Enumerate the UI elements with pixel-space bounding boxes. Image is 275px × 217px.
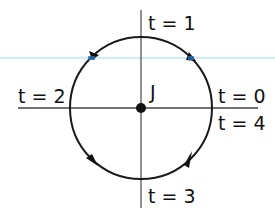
label-t2: t = 2 <box>18 85 66 107</box>
label-center-j: J <box>149 81 156 103</box>
label-t4: t = 4 <box>218 112 266 134</box>
circular-motion-diagram: t = 1 t = 2 t = 0 t = 4 t = 3 J <box>0 0 275 217</box>
label-t0: t = 0 <box>218 85 266 107</box>
center-point <box>136 103 146 113</box>
label-t1: t = 1 <box>148 12 196 34</box>
arrow-highlight-upper-right <box>188 56 194 60</box>
label-t3: t = 3 <box>148 185 196 207</box>
arrow-highlight-upper-left <box>88 56 95 60</box>
